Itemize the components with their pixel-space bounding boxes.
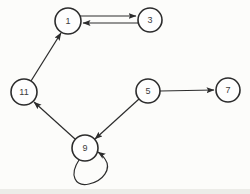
nodes-layer: 1311579 [11,8,240,161]
graph-node-3: 3 [138,8,162,32]
edge-11-to-1 [31,33,61,81]
node-label-7: 7 [225,85,230,95]
graph-node-11: 11 [11,79,37,105]
graph-node-5: 5 [136,79,160,103]
node-label-5: 5 [145,86,150,96]
node-label-3: 3 [147,15,152,25]
edge-5-to-9 [95,99,139,139]
graph-diagram: 1311579 [0,0,250,194]
graph-node-9: 9 [72,135,98,161]
node-label-9: 9 [82,143,87,153]
edge-5-to-7 [160,90,214,91]
edge-9-to-11 [34,102,75,139]
edges-layer [31,16,214,184]
node-label-11: 11 [19,87,28,97]
node-label-1: 1 [65,16,70,26]
graph-node-7: 7 [216,78,240,102]
graph-svg: 1311579 [0,0,250,194]
graph-node-1: 1 [55,8,81,34]
